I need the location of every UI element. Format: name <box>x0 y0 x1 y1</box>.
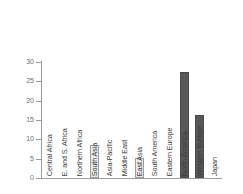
bar-slot[interactable]: South America <box>147 62 162 178</box>
y-axis-tick-label: 15 <box>6 116 34 123</box>
bars-layer: Central AfricaE. and S. AfricaNorthern A… <box>42 62 222 178</box>
bar-chart: 051015202530 Central AfricaE. and S. Afr… <box>0 0 243 194</box>
x-axis-line <box>41 178 222 179</box>
x-axis-category-label: E. and S. Africa <box>60 128 67 176</box>
y-axis-tick-label-wrap: 10 <box>0 135 34 143</box>
bar-slot[interactable]: South Asia <box>87 62 102 178</box>
x-axis-category-label: Japan <box>210 157 217 176</box>
bar-slot[interactable]: Central Africa <box>42 62 57 178</box>
y-axis-tick-label-wrap: 25 <box>0 77 34 85</box>
bar-slot[interactable]: Eastern Europe <box>162 62 177 178</box>
bar-slot[interactable]: East Asia <box>132 62 147 178</box>
y-axis-tick-label: 0 <box>6 174 34 181</box>
y-axis-tick-label: 25 <box>6 77 34 84</box>
y-axis-tick-label-wrap: 15 <box>0 116 34 124</box>
y-axis-tick-label-wrap: 5 <box>0 155 34 163</box>
plot-area: Central AfricaE. and S. AfricaNorthern A… <box>42 62 222 178</box>
bar-slot[interactable]: Northern Africa <box>72 62 87 178</box>
y-axis-tick-label: 20 <box>6 97 34 104</box>
bar-slot[interactable]: Japan <box>207 62 222 178</box>
x-axis-category-label: Central Africa <box>45 134 52 176</box>
x-axis-category-label: Middle East <box>120 140 127 176</box>
y-axis-tick-label-wrap: 30 <box>0 58 34 66</box>
bar-slot[interactable]: Middle East <box>117 62 132 178</box>
x-axis-category-label: Western Europe <box>195 126 202 176</box>
bar-slot[interactable]: Western Europe <box>192 62 207 178</box>
y-axis-tick-label-wrap: 20 <box>0 97 34 105</box>
x-axis-category-label: North America <box>180 132 187 176</box>
y-axis-tick-label: 30 <box>6 58 34 65</box>
bar-slot[interactable]: Asia-Pacific <box>102 62 117 178</box>
y-axis-tick-label: 5 <box>6 155 34 162</box>
x-axis-category-label: South Asia <box>90 143 97 176</box>
x-axis-category-label: East Asia <box>135 147 142 176</box>
y-axis-tick-label: 10 <box>6 135 34 142</box>
x-axis-category-label: Asia-Pacific <box>105 140 112 176</box>
bar-slot[interactable]: E. and S. Africa <box>57 62 72 178</box>
x-axis-category-label: Northern Africa <box>75 130 82 176</box>
y-axis-tick-label-wrap: 0 <box>0 174 34 182</box>
y-axis-tick-mark <box>36 178 42 179</box>
x-axis-category-label: South America <box>150 131 157 176</box>
bar-slot[interactable]: North America <box>177 62 192 178</box>
x-axis-category-label: Eastern Europe <box>165 127 172 176</box>
